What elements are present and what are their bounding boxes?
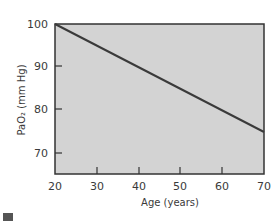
x-tick-label: 20 [48, 180, 62, 193]
x-tick-label: 60 [215, 180, 229, 193]
y-tick-label: 90 [34, 60, 48, 73]
y-tick-label: 80 [34, 103, 48, 116]
y-tick-label: 100 [27, 18, 48, 31]
x-tick-label: 30 [90, 180, 104, 193]
caption-marker [3, 213, 13, 221]
x-axis-label: Age (years) [141, 197, 199, 208]
y-axis-label: PaO₂ (mm Hg) [16, 64, 27, 135]
chart: 100 90 80 70 20 30 40 50 60 70 Age (year… [0, 0, 276, 221]
x-tick-label: 40 [132, 180, 146, 193]
plot-area [55, 24, 264, 174]
x-tick-label: 70 [257, 180, 271, 193]
x-tick-label: 50 [173, 180, 187, 193]
y-tick-label: 70 [34, 147, 48, 160]
